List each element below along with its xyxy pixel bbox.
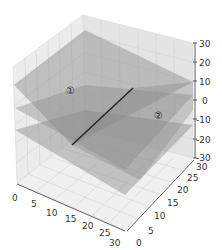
x-tick-label: 20	[82, 221, 94, 231]
y-tick-label: 0	[136, 238, 142, 248]
3d-plot: ① ② 30 20 10 0 -10 -20 -30 0 5 10 15 20 …	[0, 0, 222, 250]
z-tick-label: -10	[196, 115, 211, 125]
y-tick-label: 10	[154, 211, 166, 221]
x-tick-label: 15	[65, 214, 76, 224]
z-tick-label: -20	[196, 135, 211, 145]
z-tick-label: 30	[199, 39, 211, 49]
x-tick-label: 10	[46, 208, 58, 218]
z-tick-label: 10	[199, 77, 211, 87]
y-tick-label: 15	[167, 198, 178, 208]
y-tick-label: 5	[148, 226, 154, 236]
y-tick-label: 25	[187, 173, 198, 183]
x-tick-label: 5	[31, 199, 37, 209]
z-tick-label: 0	[202, 96, 208, 106]
x-tick-label: 25	[99, 228, 110, 238]
x-tick-label: 30	[109, 238, 121, 248]
region-2-label: ②	[154, 110, 163, 121]
z-tick-label: 20	[199, 58, 211, 68]
y-tick-label: 30	[196, 162, 208, 172]
x-tick-label: 0	[12, 193, 18, 203]
y-tick-label: 20	[177, 185, 189, 195]
region-1-label: ①	[66, 85, 75, 96]
